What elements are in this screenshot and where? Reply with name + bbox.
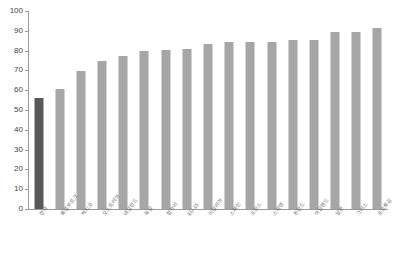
category-label-slot: 일본 <box>324 211 345 254</box>
y-tick-label: 90 <box>14 26 23 35</box>
y-tick-mark <box>25 130 28 131</box>
bar-slot <box>70 11 91 209</box>
y-tick-label: 70 <box>14 65 23 74</box>
bar-slot <box>28 11 49 209</box>
y-tick-mark <box>25 189 28 190</box>
y-tick-mark <box>25 209 28 210</box>
bar-slot <box>367 11 388 209</box>
y-tick-label: 30 <box>14 145 23 154</box>
bar-slot <box>92 11 113 209</box>
category-label-slot: 네덜란드 <box>113 211 134 254</box>
category-label-slot: 룩셈부르크 <box>49 211 70 254</box>
bar[interactable] <box>161 50 170 209</box>
bar[interactable] <box>373 28 382 209</box>
bar[interactable] <box>119 56 128 209</box>
category-label-slot: 핀란드 <box>282 211 303 254</box>
category-label-slot: 프랑스 <box>240 211 261 254</box>
plot-area <box>28 11 388 209</box>
y-tick-mark <box>25 51 28 52</box>
category-label-slot: 스페인 <box>219 211 240 254</box>
bar-slot <box>155 11 176 209</box>
y-tick-mark <box>25 90 28 91</box>
bar[interactable] <box>76 71 85 209</box>
y-tick-mark <box>25 169 28 170</box>
category-label-slot: 헝가리 <box>155 211 176 254</box>
bar[interactable] <box>331 32 340 209</box>
category-label-slot: 포르투갈 <box>367 211 388 254</box>
bar[interactable] <box>34 98 43 209</box>
y-tick-mark <box>25 110 28 111</box>
y-tick-mark <box>25 31 28 32</box>
bar[interactable] <box>203 44 212 209</box>
bar[interactable] <box>352 32 361 209</box>
bar[interactable] <box>140 51 149 209</box>
y-tick-mark <box>25 11 28 12</box>
bar-slot <box>176 11 197 209</box>
bar[interactable] <box>98 61 107 209</box>
bar-slot <box>261 11 282 209</box>
bar[interactable] <box>309 40 318 209</box>
y-tick-label: 50 <box>14 105 23 114</box>
bar-slot <box>240 11 261 209</box>
y-tick-label: 40 <box>14 125 23 134</box>
category-label-slot: 멕시코 <box>70 211 91 254</box>
category-label-slot: EU 15 <box>176 211 197 254</box>
category-label-slot: 스웨덴 <box>261 211 282 254</box>
bar-slot <box>282 11 303 209</box>
category-label-slot: 아일랜드 <box>303 211 324 254</box>
bar[interactable] <box>225 42 234 209</box>
bar-slot <box>324 11 345 209</box>
category-label-slot: 이탈리아 <box>197 211 218 254</box>
category-label-slot: 한국 <box>28 211 49 254</box>
y-tick-label: 80 <box>14 46 23 55</box>
bar-slot <box>134 11 155 209</box>
category-label-slot: 그리스 <box>346 211 367 254</box>
bar-slot <box>346 11 367 209</box>
bar[interactable] <box>288 40 297 209</box>
bar[interactable] <box>267 42 276 209</box>
category-label-slot: 오스트리아 <box>92 211 113 254</box>
y-tick-label: 0 <box>19 204 23 213</box>
y-tick-label: 10 <box>14 184 23 193</box>
y-tick-mark <box>25 150 28 151</box>
y-tick-label: 60 <box>14 85 23 94</box>
bar[interactable] <box>246 42 255 209</box>
bar-slot <box>113 11 134 209</box>
chart-title-clipped <box>0 0 392 6</box>
y-tick-mark <box>25 70 28 71</box>
bar-slot <box>49 11 70 209</box>
category-label-slot: 독일 <box>134 211 155 254</box>
bar[interactable] <box>182 49 191 209</box>
x-axis-category-labels: 한국룩셈부르크멕시코오스트리아네덜란드독일헝가리EU 15이탈리아스페인프랑스스… <box>28 211 388 254</box>
y-tick-label: 100 <box>10 6 23 15</box>
bar-slot <box>303 11 324 209</box>
bar-slot <box>219 11 240 209</box>
bar[interactable] <box>55 89 64 209</box>
bars-container <box>28 11 388 209</box>
bar-slot <box>197 11 218 209</box>
y-tick-label: 20 <box>14 164 23 173</box>
